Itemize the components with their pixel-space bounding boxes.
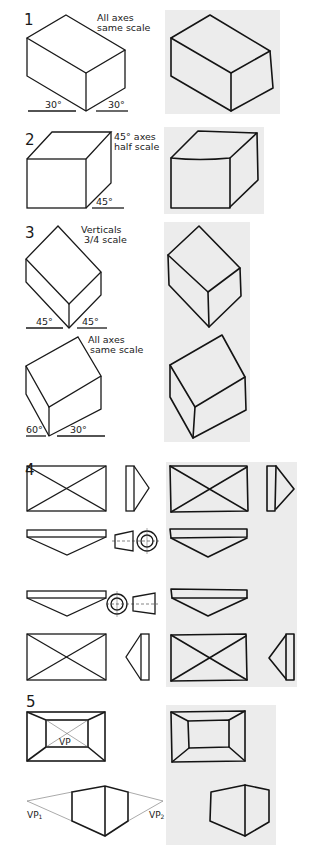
scale-note-line2: same scale xyxy=(97,22,151,33)
drawing-canvas: 1 All axes same scale 30° 30° 2 45° axes… xyxy=(0,0,309,853)
angle-label-left: 30° xyxy=(45,99,62,110)
scale-note-line2: half scale xyxy=(114,141,159,152)
freehand-sketch-panel-5 xyxy=(166,705,276,845)
section-3: 3 Verticals 3/4 scale 45° 45° All axes s… xyxy=(25,222,250,442)
vanishing-point-1-label: VP1 xyxy=(27,810,43,820)
section-2: 2 45° axes half scale 45° xyxy=(25,127,264,214)
angle-label-left: 60° xyxy=(26,424,43,435)
angle-label-right: 45° xyxy=(82,316,99,327)
angle-label-left: 45° xyxy=(36,316,53,327)
angle-label-right: 30° xyxy=(108,99,125,110)
section-number: 1 xyxy=(24,11,34,29)
vanishing-point-2-label: VP2 xyxy=(149,810,165,820)
scale-note-line2: 3/4 scale xyxy=(84,234,127,245)
freehand-sketch-panel-1 xyxy=(165,10,280,114)
orthographic-views-drawing xyxy=(27,466,159,680)
freehand-sketch-panel-3 xyxy=(164,222,250,442)
section-number: 3 xyxy=(25,224,35,242)
angle-label-right: 30° xyxy=(70,424,87,435)
section-1: 1 All axes same scale 30° 30° xyxy=(24,10,280,114)
angle-label: 45° xyxy=(96,196,113,207)
vanishing-point-label: VP xyxy=(59,737,71,747)
section-5: 5 VP VP1 VP2 xyxy=(26,693,276,845)
freehand-sketch-panel-2 xyxy=(164,127,264,214)
freehand-sketch-panel-4 xyxy=(166,462,297,687)
two-point-perspective-drawing xyxy=(27,786,163,836)
section-4: 4 xyxy=(25,461,297,687)
section-number: 2 xyxy=(25,131,35,149)
section-number: 5 xyxy=(26,693,36,711)
scale-note-2-line2: same scale xyxy=(90,344,144,355)
